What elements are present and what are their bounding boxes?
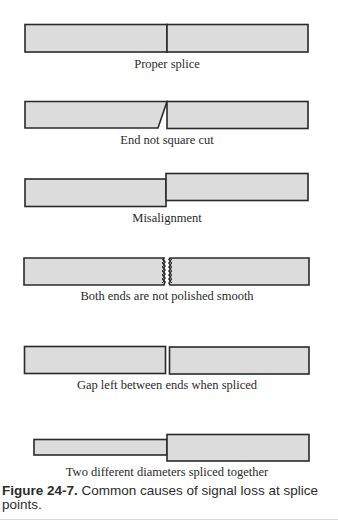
diagram-label-gap-between-ends: Gap left between ends when spliced — [0, 378, 334, 393]
diagram-label-proper-splice: Proper splice — [0, 57, 334, 72]
diagram-label-different-diameters: Two different diameters spliced together — [0, 465, 334, 480]
figure-caption: Figure 24-7. Common causes of signal los… — [2, 484, 322, 512]
caption-divider — [0, 519, 338, 520]
different-diameters-diagram — [34, 435, 309, 462]
proper-splice-diagram — [25, 25, 308, 53]
misalignment-diagram — [25, 174, 308, 207]
diagram-label-end-not-square-cut: End not square cut — [0, 133, 334, 148]
gap-diagram — [25, 347, 310, 375]
diagram-label-misalignment: Misalignment — [0, 211, 334, 226]
angled-cut-diagram — [25, 102, 308, 129]
splice-diagrams — [0, 0, 338, 521]
diagram-label-ends-not-polished: Both ends are not polished smooth — [0, 289, 334, 304]
unpolished-ends-diagram — [24, 258, 309, 285]
figure-number: Figure 24-7. — [2, 483, 78, 498]
